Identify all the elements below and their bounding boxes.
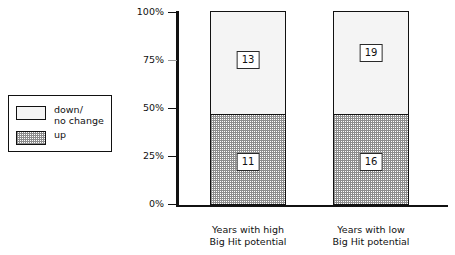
y-tick-label-50: 50% (130, 103, 164, 113)
y-tick-0 (168, 204, 177, 206)
bar-segment-down-no-change-1: 13 (211, 12, 285, 114)
category-label-low-potential: Years with low Big Hit potential (301, 224, 441, 248)
bar-value-label-16: 16 (360, 153, 383, 171)
y-tick-100 (168, 12, 177, 14)
bar-years-with-low-big-hit-potential[interactable]: 19 16 (333, 11, 409, 205)
bar-value-label-19: 19 (360, 44, 383, 62)
stacked-bar-chart: down/ no change up 100% 75% 50% 25% 0% (0, 0, 455, 255)
bar-value-label-13: 13 (237, 51, 260, 69)
y-tick-label-50-wrap: 50% (128, 103, 164, 113)
y-tick-label-25-wrap: 25% (128, 151, 164, 161)
y-tick-label-75-wrap: 75% (128, 55, 164, 65)
bar-years-with-high-big-hit-potential[interactable]: 13 11 (210, 11, 286, 205)
y-tick-label-100: 100% (130, 7, 164, 17)
y-tick-label-25: 25% (130, 151, 164, 161)
category-label-high-potential: Years with high Big Hit potential (178, 224, 318, 248)
y-tick-label-75: 75% (130, 55, 164, 65)
y-tick-75 (168, 60, 177, 62)
bar-segment-up-1: 11 (211, 114, 285, 204)
bar-segment-up-2: 16 (334, 114, 408, 204)
y-tick-50 (168, 108, 177, 110)
y-tick-label-100-wrap: 100% (128, 7, 164, 17)
y-tick-label-0: 0% (130, 199, 164, 209)
y-tick-label-0-wrap: 0% (128, 199, 164, 209)
plot-area: 100% 75% 50% 25% 0% 13 11 (0, 0, 455, 255)
bar-segment-down-no-change-2: 19 (334, 12, 408, 114)
y-axis-line (176, 11, 179, 207)
bar-value-label-11: 11 (237, 153, 260, 171)
y-tick-25 (168, 156, 177, 158)
